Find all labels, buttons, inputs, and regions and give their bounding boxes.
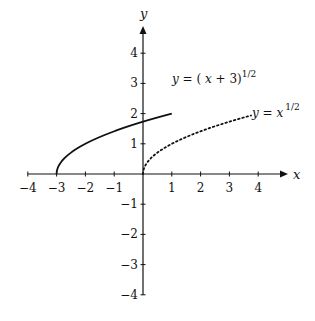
x-axis-arrow-icon bbox=[280, 171, 288, 178]
curve-label-shifted-sqrt: y = ( x + 3)1/2 bbox=[171, 69, 256, 86]
y-tick-label: 2 bbox=[130, 107, 138, 121]
y-tick-label: 4 bbox=[130, 46, 138, 60]
y-tick-label: −4 bbox=[120, 288, 138, 302]
x-tick-label: −3 bbox=[48, 181, 66, 195]
plot-area: −4−3−2−112344321−1−2−3−4 x y y = ( x + 3… bbox=[0, 0, 315, 321]
curve-label-sqrt: y = x1/2 bbox=[251, 102, 300, 120]
x-tick-label: −4 bbox=[19, 181, 37, 195]
y-tick-label: −3 bbox=[120, 258, 138, 272]
x-tick-label: −1 bbox=[105, 181, 123, 195]
y-tick-label: 3 bbox=[130, 76, 138, 90]
x-axis-label: x bbox=[293, 167, 301, 182]
curve-sqrt bbox=[143, 116, 251, 174]
y-tick-label: −2 bbox=[120, 227, 138, 241]
y-tick-label: 1 bbox=[130, 137, 138, 151]
y-tick-label: −1 bbox=[120, 197, 138, 211]
graph-figure: −4−3−2−112344321−1−2−3−4 x y y = ( x + 3… bbox=[0, 0, 315, 321]
y-axis-label: y bbox=[139, 6, 148, 21]
x-tick-label: 3 bbox=[226, 181, 234, 195]
curve-shifted-sqrt bbox=[57, 114, 172, 174]
curves bbox=[57, 114, 251, 174]
x-tick-label: −2 bbox=[77, 181, 95, 195]
axes bbox=[28, 26, 288, 295]
x-tick-label: 1 bbox=[168, 181, 176, 195]
x-tick-label: 2 bbox=[197, 181, 205, 195]
x-tick-label: 4 bbox=[254, 181, 262, 195]
y-axis-arrow-icon bbox=[140, 26, 147, 34]
